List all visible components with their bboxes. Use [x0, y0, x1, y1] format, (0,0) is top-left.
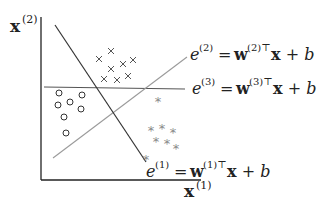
diagram-canvas: x (2) x (1) e (2) = w (2)⊤ x + b e (3) =… — [0, 0, 325, 214]
svg-text:*: * — [143, 152, 150, 167]
svg-text:(1)⊤: (1)⊤ — [203, 159, 227, 170]
svg-text:(1): (1) — [155, 159, 169, 170]
boundary-line-e3 — [44, 87, 185, 89]
equation-e3: e (3) = w (3)⊤ x + b — [192, 76, 316, 98]
svg-text:x + b: x + b — [271, 45, 314, 64]
svg-text:*: * — [155, 94, 162, 109]
svg-text:=: = — [218, 45, 231, 64]
x-axis-label: x — [184, 181, 195, 201]
class-stars: * * * * * * * * — [143, 94, 180, 167]
svg-text:x + b: x + b — [273, 79, 316, 98]
equation-e2: e (2) = w (2)⊤ x + b — [190, 42, 314, 64]
svg-text:*: * — [170, 125, 177, 140]
class-circles — [55, 90, 85, 136]
svg-text:*: * — [153, 134, 160, 149]
svg-text:*: * — [173, 141, 180, 156]
svg-text:(2): (2) — [199, 42, 213, 53]
class-crosses — [96, 48, 136, 83]
y-axis-label-sup: (2) — [22, 13, 38, 26]
boundary-line-e1 — [55, 25, 146, 162]
y-axis-label: x — [10, 16, 21, 36]
svg-text:=: = — [174, 162, 187, 181]
svg-text:(3)⊤: (3)⊤ — [249, 76, 273, 87]
svg-text:(3): (3) — [201, 76, 215, 87]
svg-text:*: * — [164, 136, 171, 151]
svg-text:x + b: x + b — [227, 162, 270, 181]
svg-text:*: * — [159, 121, 166, 136]
svg-text:(2)⊤: (2)⊤ — [247, 42, 271, 53]
svg-text:=: = — [220, 79, 233, 98]
equation-e1: e (1) = w (1)⊤ x + b — [146, 159, 270, 181]
